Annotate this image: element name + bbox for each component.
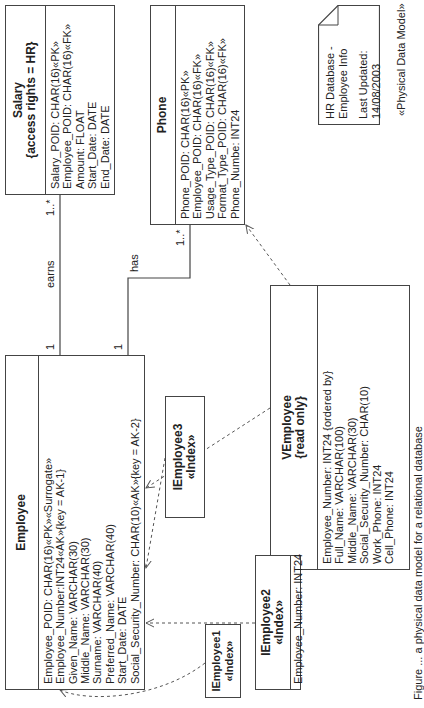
attribute: Employee_Number: INT24 {ordered by}	[321, 291, 333, 564]
attribute: Cell_Phone: INT24	[383, 291, 395, 564]
table-phone-attributes: Phone_POID: CHAR(16)«PK» Employee_POID: …	[176, 6, 244, 224]
note-line-1: HR Database -	[324, 5, 337, 119]
index-iemployee2-stereotype: «Index»	[273, 558, 286, 687]
table-employee-attributes: Employee_POID: CHAR(16)«PK»«Surrogate» E…	[39, 356, 144, 689]
index-iemployee1-stereotype: «Index»	[223, 627, 236, 695]
attribute: Employee_POID: CHAR(16)«PK»«Surrogate»	[42, 361, 54, 684]
view-vemployee-attributes: Employee_Number: INT24 {ordered by} Full…	[318, 286, 398, 569]
index-iemployee1-name: IEmployee1	[210, 627, 223, 695]
earns-source-multiplicity: 1	[44, 344, 56, 350]
attribute: Employee_Number: INT24	[292, 561, 304, 684]
has-source-multiplicity: 1	[112, 344, 124, 350]
attribute: Social_Security_Number: CHAR(10)«AK»{key…	[129, 361, 141, 684]
attribute: Middle_Name: VARCHAR(30)	[79, 361, 91, 684]
attribute: Amount: FLOAT	[74, 11, 86, 189]
attribute: Middle_Name: VARCHAR(30)	[346, 291, 358, 564]
dependency-vemployee-phone	[246, 225, 290, 285]
view-vemployee-header: VEmployee {read only}	[271, 286, 318, 569]
note-hr-database: HR Database - Employee Info Last Updated…	[318, 5, 380, 125]
dependency-iemployee3-employee	[146, 458, 165, 568]
index-iemployee1-header: IEmployee1 «Index»	[206, 625, 240, 697]
has-target-multiplicity: 1..*	[174, 229, 186, 246]
table-employee-header: Employee	[6, 356, 39, 689]
table-salary-header: Salary {access rights = HR}	[6, 6, 46, 194]
attribute: Start_Date: DATE	[86, 11, 98, 189]
attribute: Start_Date: DATE	[116, 361, 128, 684]
note-line-3: Last Updated: 14/08/2003	[357, 5, 383, 119]
attribute: Employee_POID: CHAR(16)«FK»	[191, 11, 203, 219]
index-iemployee2-attributes: Employee_Number: INT24	[291, 556, 307, 689]
view-vemployee[interactable]: VEmployee {read only} Employee_Number: I…	[270, 285, 410, 570]
table-employee-name: Employee	[15, 358, 28, 687]
attribute: Salary_POID: CHAR(16)«PK»	[49, 11, 61, 189]
table-phone-header: Phone	[151, 6, 176, 224]
attribute: Social_Security_Number: CHAR(10)	[358, 291, 370, 564]
index-iemployee3[interactable]: IEmployee3 «Index»	[165, 396, 205, 518]
index-iemployee1[interactable]: IEmployee1 «Index»	[205, 624, 241, 698]
table-phone-name: Phone	[156, 8, 169, 222]
earns-label: earns	[44, 260, 56, 288]
attribute: Given_Name: VARCHAR(30)	[67, 361, 79, 684]
attribute: End_Date: DATE	[99, 11, 111, 189]
note-line-2: Employee Info	[337, 5, 350, 119]
index-iemployee2-header: IEmployee2 «Index»	[256, 556, 291, 689]
earns-target-multiplicity: 1..*	[44, 199, 56, 216]
has-label: has	[128, 254, 140, 272]
attribute: Employee_Number:INT24«AK»{key = AK-1}	[54, 361, 66, 684]
diagram-stereotype: «Physical Data Model»	[395, 3, 407, 116]
attribute: Phone_POID: CHAR(16)«PK»	[179, 11, 191, 219]
table-salary-attributes: Salary_POID: CHAR(16)«PK» Employee_POID:…	[46, 6, 114, 194]
attribute: Full_Name: VARCHAR(100)	[333, 291, 345, 564]
attribute: Employee_POID: CHAR(16)«FK»	[61, 11, 73, 189]
table-salary[interactable]: Salary {access rights = HR} Salary_POID:…	[5, 5, 115, 195]
view-vemployee-subtitle: {read only}	[294, 288, 307, 567]
attribute: Usage_Type_POID: CHAR(16)«FK»	[204, 11, 216, 219]
attribute: Surname: VARCHAR(40)	[91, 361, 103, 684]
attribute: Preferred_Name: VARCHAR(40)	[104, 361, 116, 684]
index-iemployee3-stereotype: «Index»	[185, 399, 198, 515]
index-iemployee2[interactable]: IEmployee2 «Index» Employee_Number: INT2…	[255, 555, 301, 690]
table-phone[interactable]: Phone Phone_POID: CHAR(16)«PK» Employee_…	[150, 5, 245, 225]
attribute: Work_Phone: INT24	[371, 291, 383, 564]
figure-caption: Figure ... a physical data model for a r…	[412, 426, 424, 700]
attribute: Phone_Numbe: INT24	[229, 11, 241, 219]
table-employee[interactable]: Employee Employee_POID: CHAR(16)«PK»«Sur…	[5, 355, 145, 690]
table-salary-subtitle: {access rights = HR}	[25, 8, 38, 192]
attribute: Format_Type_POID: CHAR(16)«FK»	[216, 11, 228, 219]
index-iemployee3-header: IEmployee3 «Index»	[166, 397, 204, 517]
note-text: HR Database - Employee Info Last Updated…	[324, 5, 383, 119]
